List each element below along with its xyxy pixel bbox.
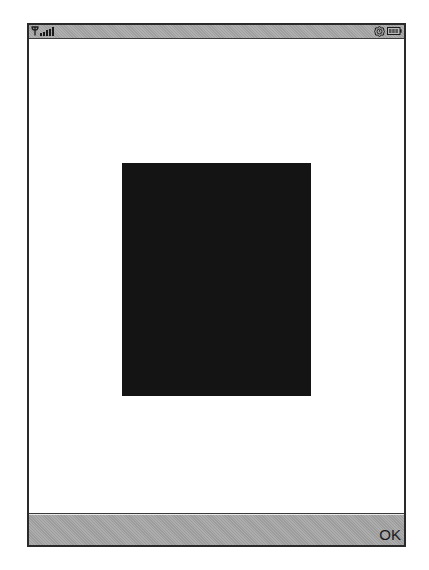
ok-softkey-button[interactable]: OK [379, 527, 401, 543]
content-area [29, 39, 404, 514]
image-preview [122, 163, 311, 396]
softkey-bar: OK [29, 513, 404, 545]
alarm-icon [374, 26, 385, 37]
status-bar [29, 25, 404, 39]
signal-strength-icon [40, 27, 54, 36]
battery-icon [387, 27, 402, 35]
antenna-icon [31, 26, 39, 36]
phone-screen: OK [27, 23, 406, 547]
